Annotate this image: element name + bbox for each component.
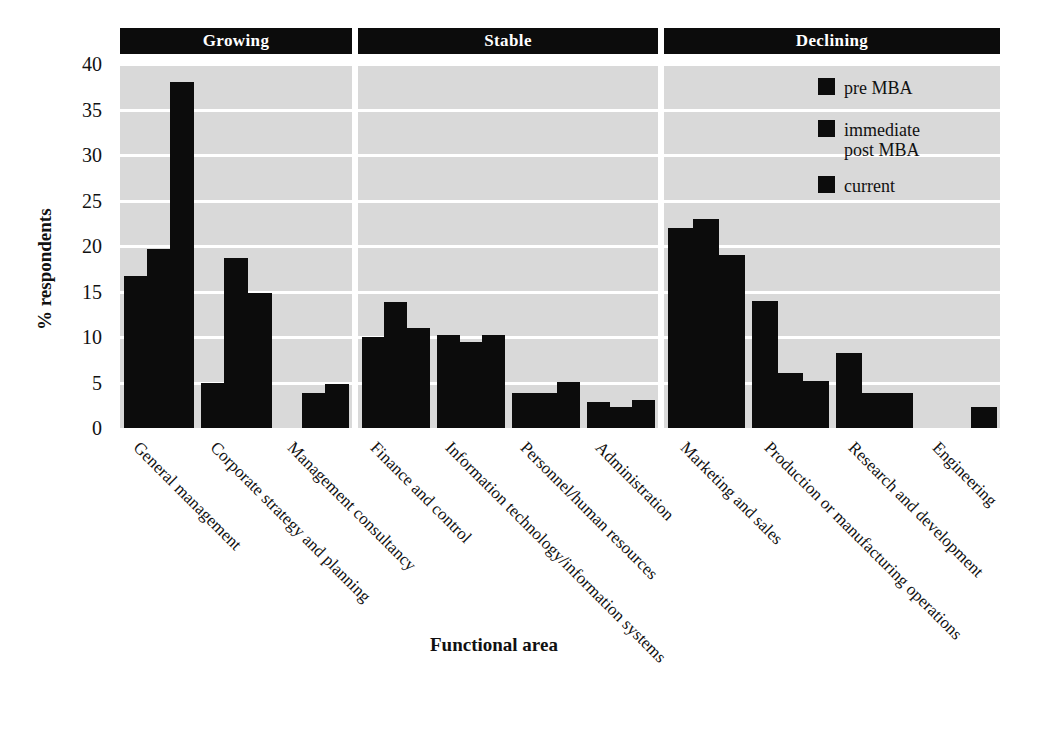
bar xyxy=(668,228,694,428)
y-axis-tick-label: 10 xyxy=(62,326,102,349)
legend-swatch-icon xyxy=(818,120,835,137)
y-axis-tick-label: 5 xyxy=(62,371,102,394)
bar xyxy=(693,219,719,428)
group-band-label: Stable xyxy=(484,31,532,51)
bar xyxy=(201,383,225,429)
bar-chart: Growing Stable Declining 051015202530354… xyxy=(0,0,1039,732)
gridline xyxy=(358,291,658,294)
bar xyxy=(971,407,997,428)
bar xyxy=(719,255,745,428)
gridline xyxy=(120,245,352,248)
bar xyxy=(752,301,778,428)
gridline xyxy=(120,154,352,157)
gridline xyxy=(120,109,352,112)
bar xyxy=(384,302,407,428)
legend-label: pre MBA xyxy=(844,78,913,98)
bar xyxy=(632,400,655,428)
y-axis-tick-label: 40 xyxy=(62,53,102,76)
y-axis-tick-label: 35 xyxy=(62,98,102,121)
gridline xyxy=(358,200,658,203)
x-axis-tick-label: Research and development xyxy=(844,438,988,582)
gridline xyxy=(120,63,352,66)
bar xyxy=(887,393,913,428)
gridline xyxy=(358,109,658,112)
gridline xyxy=(664,200,1000,203)
x-axis-tick-label: Personnel/human resources xyxy=(515,438,661,584)
group-band-growing: Growing xyxy=(120,28,352,54)
legend-item-current: current xyxy=(818,176,895,196)
bar xyxy=(147,249,171,428)
bar xyxy=(437,335,460,428)
gridline xyxy=(664,63,1000,66)
legend: pre MBA immediate post MBA current xyxy=(818,78,998,190)
x-axis-tick-label: Corporate strategy and planning xyxy=(206,438,375,607)
legend-label: immediate post MBA xyxy=(844,120,920,160)
bar xyxy=(362,337,385,428)
x-axis-tick-label: Engineering xyxy=(928,438,1001,511)
bar xyxy=(777,373,803,428)
legend-swatch-icon xyxy=(818,78,835,95)
bar xyxy=(302,393,326,428)
bar xyxy=(557,382,580,428)
legend-item-immediate-post-mba: immediate post MBA xyxy=(818,120,920,160)
legend-item-pre-mba: pre MBA xyxy=(818,78,913,98)
bar xyxy=(609,407,632,428)
bar xyxy=(224,258,248,428)
bar xyxy=(836,353,862,428)
group-band-declining: Declining xyxy=(664,28,1000,54)
group-band-label: Declining xyxy=(796,31,869,51)
group-band-label: Growing xyxy=(203,31,270,51)
bar xyxy=(407,328,430,428)
gridline xyxy=(358,63,658,66)
y-axis-tick-label: 30 xyxy=(62,144,102,167)
y-axis-tick-label: 20 xyxy=(62,235,102,258)
bar xyxy=(482,335,505,428)
bar xyxy=(803,381,829,428)
bar xyxy=(587,402,610,428)
gridline xyxy=(358,245,658,248)
bar xyxy=(124,276,148,428)
legend-swatch-icon xyxy=(818,176,835,193)
x-axis-title: Functional area xyxy=(430,634,558,656)
bar xyxy=(248,293,272,428)
group-band-stable: Stable xyxy=(358,28,658,54)
bar xyxy=(325,384,349,428)
y-axis-tick-label: 25 xyxy=(62,189,102,212)
bar xyxy=(534,393,557,428)
y-axis-title: % respondents xyxy=(34,208,56,330)
gridline xyxy=(358,154,658,157)
bar xyxy=(170,82,194,428)
y-axis-tick-label: 0 xyxy=(62,417,102,440)
bar xyxy=(459,342,482,428)
bar xyxy=(861,393,887,428)
panel-stable xyxy=(358,64,658,428)
bar xyxy=(512,393,535,428)
legend-label: current xyxy=(844,176,895,196)
y-axis-tick-label: 15 xyxy=(62,280,102,303)
gridline xyxy=(120,200,352,203)
panel-growing xyxy=(120,64,352,428)
